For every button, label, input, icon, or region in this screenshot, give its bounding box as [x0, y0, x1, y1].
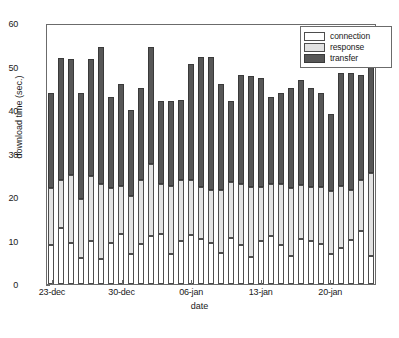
- bar-segment-transfer: [158, 101, 164, 184]
- bar[interactable]: [58, 25, 64, 284]
- bar[interactable]: [138, 25, 144, 284]
- bar-segment-connection: [218, 253, 224, 284]
- bar[interactable]: [268, 25, 274, 284]
- bar[interactable]: [158, 25, 164, 284]
- x-tick-mark: [122, 280, 123, 285]
- bar-segment-transfer: [178, 100, 184, 180]
- bar-segment-connection: [318, 244, 324, 284]
- y-tick-label: 10: [0, 237, 18, 247]
- x-tick-label: 06-jan: [179, 287, 203, 297]
- bar-segment-transfer: [208, 57, 214, 190]
- bar[interactable]: [128, 25, 134, 284]
- bar[interactable]: [78, 25, 84, 284]
- bar[interactable]: [248, 25, 254, 284]
- bar-segment-connection: [148, 236, 154, 284]
- bar[interactable]: [178, 25, 184, 284]
- bar-segment-response: [248, 187, 254, 257]
- x-tick-label: 30-dec: [108, 287, 134, 297]
- bar-segment-transfer: [308, 88, 314, 187]
- bar-segment-connection: [48, 245, 54, 284]
- bar-segment-response: [298, 185, 304, 239]
- bar-segment-connection: [268, 236, 274, 284]
- bar-segment-connection: [58, 228, 64, 284]
- bar-segment-connection: [128, 254, 134, 284]
- bar-segment-response: [118, 186, 124, 234]
- legend-item-response[interactable]: response: [304, 42, 388, 52]
- x-tick-mark: [261, 280, 262, 285]
- bar-segment-transfer: [258, 78, 264, 187]
- bar-segment-connection: [208, 243, 214, 284]
- bar-segment-transfer: [108, 97, 114, 188]
- bar[interactable]: [68, 25, 74, 284]
- bar-segment-transfer: [138, 88, 144, 180]
- bar-segment-transfer: [88, 59, 94, 176]
- bar-segment-response: [358, 180, 364, 230]
- chart-legend: connectionresponsetransfer: [300, 26, 392, 68]
- bar-segment-response: [288, 188, 294, 255]
- bar[interactable]: [198, 25, 204, 284]
- bar-segment-connection: [248, 257, 254, 284]
- legend-item-transfer[interactable]: transfer: [304, 53, 388, 63]
- bar[interactable]: [88, 25, 94, 284]
- bar[interactable]: [278, 25, 284, 284]
- bar-segment-connection: [348, 240, 354, 284]
- bar-segment-connection: [78, 258, 84, 284]
- bar-segment-response: [128, 196, 134, 255]
- bar-segment-transfer: [118, 84, 124, 186]
- legend-label: connection: [330, 31, 370, 41]
- bar-segment-transfer: [278, 93, 284, 184]
- bar[interactable]: [228, 25, 234, 284]
- legend-item-connection[interactable]: connection: [304, 31, 388, 41]
- bar-segment-connection: [98, 259, 104, 284]
- bar[interactable]: [148, 25, 154, 284]
- bar-segment-response: [138, 180, 144, 243]
- bar[interactable]: [258, 25, 264, 284]
- bar-segment-transfer: [188, 64, 194, 179]
- bar-segment-transfer: [348, 73, 354, 190]
- bar-segment-transfer: [228, 101, 234, 181]
- bar[interactable]: [98, 25, 104, 284]
- bar-segment-response: [108, 188, 114, 242]
- bar[interactable]: [48, 25, 54, 284]
- bar[interactable]: [108, 25, 114, 284]
- bar-segment-connection: [198, 239, 204, 284]
- bar-segment-connection: [108, 243, 114, 284]
- chart-figure: download time (sec.) 0102030405060 23-de…: [0, 0, 399, 338]
- bar-segment-transfer: [148, 47, 154, 164]
- bar-segment-transfer: [78, 93, 84, 200]
- bar-segment-connection: [308, 241, 314, 285]
- bar-segment-connection: [118, 234, 124, 284]
- bar-segment-connection: [168, 254, 174, 284]
- bar-segment-response: [158, 184, 164, 234]
- bar-segment-transfer: [168, 101, 174, 186]
- bar-segment-connection: [358, 231, 364, 285]
- bar[interactable]: [218, 25, 224, 284]
- bar-segment-connection: [338, 248, 344, 284]
- bar-segment-connection: [138, 244, 144, 284]
- bar[interactable]: [188, 25, 194, 284]
- bar-segment-response: [238, 184, 244, 245]
- bar-segment-response: [98, 184, 104, 259]
- bar[interactable]: [208, 25, 214, 284]
- bar-segment-response: [58, 180, 64, 228]
- bar-segment-transfer: [338, 73, 344, 186]
- bar-segment-connection: [188, 235, 194, 284]
- x-tick-mark: [330, 280, 331, 285]
- bar-segment-transfer: [238, 75, 244, 184]
- bar[interactable]: [168, 25, 174, 284]
- bar[interactable]: [238, 25, 244, 284]
- legend-swatch-response: [304, 43, 325, 52]
- bar[interactable]: [118, 25, 124, 284]
- bar-segment-connection: [278, 245, 284, 284]
- x-tick-mark: [191, 280, 192, 285]
- bar-segment-connection: [158, 234, 164, 284]
- y-tick-label: 50: [0, 63, 18, 73]
- bar-segment-response: [168, 186, 174, 253]
- bar-segment-transfer: [248, 76, 254, 187]
- x-tick-label: 13-jan: [249, 287, 273, 297]
- y-tick-label: 60: [0, 19, 18, 29]
- x-tick-label: 23-dec: [39, 287, 65, 297]
- bar-segment-connection: [88, 241, 94, 284]
- bar[interactable]: [288, 25, 294, 284]
- bar-segment-transfer: [48, 93, 54, 189]
